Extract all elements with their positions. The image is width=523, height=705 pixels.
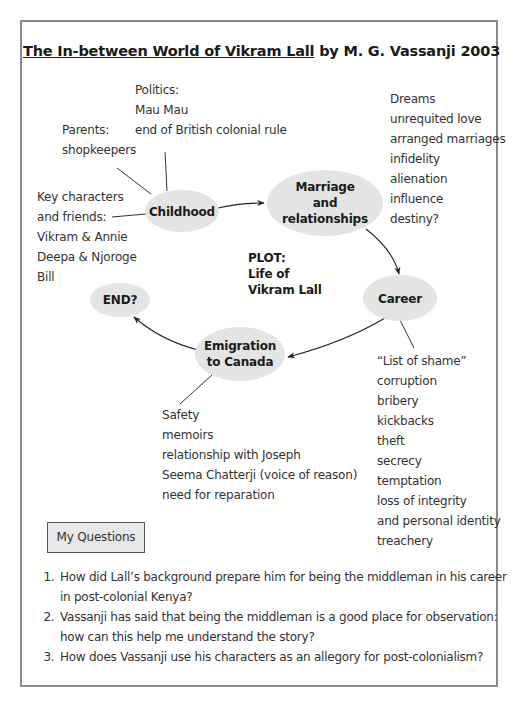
node-emigration-line: to Canada [204, 354, 276, 370]
note-line: and personal identity [377, 511, 501, 531]
note-line: Politics: [135, 80, 287, 100]
node-marriage-line: relationships [282, 211, 368, 227]
note-politics: Politics: Mau Mau end of British colonia… [135, 80, 287, 140]
note-line: corruption [377, 371, 501, 391]
note-line: influence [390, 189, 505, 209]
note-line: and friends: [37, 207, 137, 227]
question-item: How did Lall’s background prepare him fo… [58, 567, 508, 607]
plot-line: Vikram Lall [248, 282, 322, 298]
note-line: temptation [377, 471, 501, 491]
note-line: loss of integrity [377, 491, 501, 511]
node-emigration-label: Emigration to Canada [204, 338, 276, 370]
note-line: Seema Chatterji (voice of reason) [162, 465, 357, 485]
plot-label: PLOT: Life of Vikram Lall [248, 250, 322, 298]
note-career-themes: “List of shame” corruption bribery kickb… [377, 351, 501, 551]
node-marriage-label: Marriage and relationships [282, 179, 368, 227]
node-emigration-line: Emigration [204, 338, 276, 354]
connector-career-notes [400, 320, 414, 348]
note-line: bribery [377, 391, 501, 411]
plot-line: PLOT: [248, 250, 322, 266]
my-questions-heading: My Questions [47, 522, 145, 553]
note-line: shopkeepers [62, 140, 136, 160]
note-line: theft [377, 431, 501, 451]
note-line: treachery [377, 531, 501, 551]
note-marriage-themes: Dreams unrequited love arranged marriage… [390, 89, 505, 229]
note-line: Vikram & Annie [37, 227, 137, 247]
note-line: end of British colonial rule [135, 120, 287, 140]
node-end-label: END? [103, 292, 137, 308]
node-career-label: Career [378, 291, 422, 307]
note-line: relationship with Joseph [162, 445, 357, 465]
connector-politics [165, 152, 167, 191]
plot-line: Life of [248, 266, 322, 282]
note-parents: Parents: shopkeepers [62, 120, 136, 160]
note-line: Key characters [37, 187, 137, 207]
node-childhood-label: Childhood [149, 204, 215, 220]
arrow-marriage-to-career [366, 229, 399, 274]
arrow-emigration-to-end [134, 317, 198, 350]
note-line: Parents: [62, 120, 136, 140]
note-emigration-themes: Safety memoirs relationship with Joseph … [162, 405, 357, 505]
note-line: unrequited love [390, 109, 505, 129]
note-line: kickbacks [377, 411, 501, 431]
note-line: Bill [37, 267, 137, 287]
note-line: infidelity [390, 149, 505, 169]
node-marriage-line: and [282, 195, 368, 211]
note-line: Mau Mau [135, 100, 287, 120]
note-line: need for reparation [162, 485, 357, 505]
note-line: secrecy [377, 451, 501, 471]
questions-list: How did Lall’s background prepare him fo… [40, 567, 508, 667]
note-line: Deepa & Njoroge [37, 247, 137, 267]
connector-emigration-notes [180, 375, 212, 404]
question-item: How does Vassanji use his characters as … [58, 647, 508, 667]
arrow-career-to-emigration [288, 318, 385, 357]
note-line: Dreams [390, 89, 505, 109]
note-line: memoirs [162, 425, 357, 445]
note-line: destiny? [390, 209, 505, 229]
note-line: Safety [162, 405, 357, 425]
node-marriage-line: Marriage [282, 179, 368, 195]
note-key-characters: Key characters and friends: Vikram & Ann… [37, 187, 137, 287]
note-line: arranged marriages [390, 129, 505, 149]
question-item: Vassanji has said that being the middlem… [58, 607, 508, 647]
arrow-childhood-to-marriage [218, 203, 264, 208]
note-line: “List of shame” [377, 351, 501, 371]
note-line: alienation [390, 169, 505, 189]
